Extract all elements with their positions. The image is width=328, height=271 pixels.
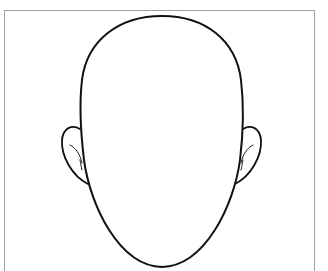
face-outline-drawing (0, 0, 328, 271)
head-outline (81, 16, 243, 267)
illustration-canvas (0, 0, 328, 271)
